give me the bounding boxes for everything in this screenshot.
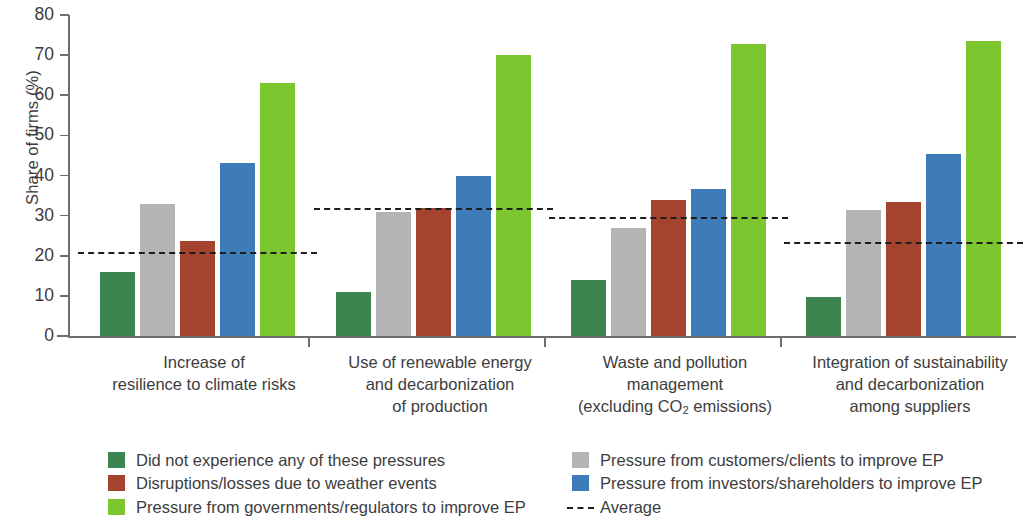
bar [220,163,255,336]
y-axis-tick [60,135,69,137]
x-axis-category-label: Integration of sustainabilityand decarbo… [780,352,1027,418]
legend-item[interactable]: Disruptions/losses due to weather events [108,472,568,496]
legend-item[interactable]: Pressure from governments/regulators to … [108,495,568,519]
x-axis-group-separator-tick [544,336,546,347]
y-axis-tick [57,335,69,337]
bar [966,41,1001,336]
legend-item-label: Pressure from customers/clients to impro… [600,452,944,469]
bar [496,55,531,336]
bar [571,280,606,336]
legend-color-swatch [108,452,125,468]
x-axis-category-label-line: (excluding CO2 emissions) [545,396,805,418]
y-axis-tick [60,54,69,56]
legend-item-label: Pressure from governments/regulators to … [136,499,526,516]
x-axis-category-label-line: Integration of sustainability [780,352,1027,374]
average-line [78,252,317,254]
y-axis-tick-label: 40 [14,167,54,185]
bar [886,202,921,336]
bar [651,200,686,336]
legend-color-swatch [108,475,125,491]
legend-color-swatch [108,499,125,515]
legend-item[interactable]: Pressure from investors/shareholders to … [572,472,1016,496]
x-axis-category-label: Increase ofresilience to climate risks [74,352,334,396]
bar [376,212,411,336]
bar [456,176,491,336]
x-axis-category-label-line: and decarbonization [780,374,1027,396]
y-axis-tick-label: 30 [14,207,54,225]
average-line [549,217,788,219]
y-axis-tick [60,295,69,297]
legend-item-label: Disruptions/losses due to weather events [136,475,437,492]
bar [336,292,371,336]
x-axis-category-label-line: among suppliers [780,396,1027,418]
bar [100,272,135,336]
legend-color-swatch [572,475,589,491]
bar [140,204,175,336]
y-axis-tick [60,255,69,257]
bar [416,208,451,336]
legend-column-left: Did not experience any of these pressure… [108,448,568,519]
x-axis-category-label-line: Waste and pollution [545,352,805,374]
average-line [314,208,553,210]
x-axis-category-label-line: Increase of [74,352,334,374]
y-axis-tick-label: 0 [14,327,54,345]
x-axis-category-label-line: and decarbonization [310,374,570,396]
x-axis-category-label: Use of renewable energyand decarbonizati… [310,352,570,418]
bar [611,228,646,336]
y-axis-tick-label: 50 [14,126,54,144]
x-axis-category-label-line: resilience to climate risks [74,374,334,396]
average-line [784,242,1023,244]
x-axis-group-separator-tick [308,336,310,347]
legend-item-label: Average [600,499,661,516]
x-axis-group-separator-tick [780,336,782,347]
x-axis-line [68,336,1016,338]
y-axis-tick [60,215,69,217]
legend-dashed-line-icon [572,499,589,515]
bar [691,189,726,336]
x-axis-category-label: Waste and pollutionmanagement(excluding … [545,352,805,418]
y-axis-tick-label: 70 [14,46,54,64]
bar [180,241,215,336]
chart-legend: Did not experience any of these pressure… [0,448,1016,522]
y-axis-tick [60,175,69,177]
legend-item[interactable]: Pressure from customers/clients to impro… [572,448,1016,472]
y-axis-tick-label: 10 [14,287,54,305]
y-axis-tick [60,14,69,16]
y-axis-tick-label: 80 [14,6,54,24]
bar [260,83,295,336]
legend-item[interactable]: Did not experience any of these pressure… [108,448,568,472]
x-axis-category-label-line: management [545,374,805,396]
x-axis-category-label-line: of production [310,396,570,418]
legend-column-right: Pressure from customers/clients to impro… [572,448,1016,519]
x-axis-category-label-line: Use of renewable energy [310,352,570,374]
legend-color-swatch [572,452,589,468]
y-axis-tick [60,94,69,96]
bar [926,154,961,336]
y-axis-tick-label: 60 [14,86,54,104]
bar [806,297,841,336]
subscript-2: 2 [682,404,688,416]
bar [846,210,881,336]
legend-item-label: Did not experience any of these pressure… [136,452,445,469]
legend-item-label: Pressure from investors/shareholders to … [600,475,982,492]
y-axis-tick-label: 20 [14,247,54,265]
legend-item[interactable]: Average [572,495,1016,519]
bar [731,44,766,336]
